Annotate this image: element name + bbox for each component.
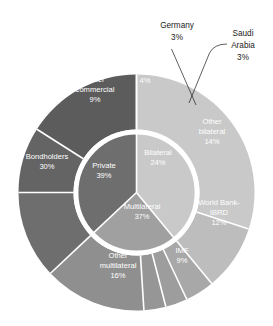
label-saudi-value: 3% bbox=[237, 53, 249, 62]
donut-chart-svg: Private 39% Bilateral 24% Multilateral 3… bbox=[0, 0, 273, 326]
donut-chart-figure: Private 39% Bilateral 24% Multilateral 3… bbox=[0, 0, 273, 326]
label-saudi-l1: Saudi bbox=[233, 29, 254, 38]
label-germany-value: 3% bbox=[171, 33, 183, 42]
label-germany-name: Germany bbox=[160, 21, 195, 30]
label-japan-name: Japan bbox=[135, 66, 156, 75]
label-saudi-l2: Arabia bbox=[231, 41, 255, 50]
